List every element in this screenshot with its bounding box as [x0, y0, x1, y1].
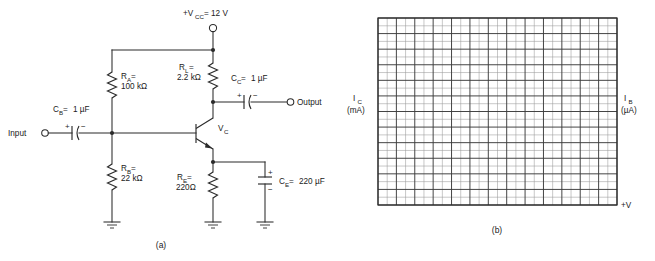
vc-label-sub: C	[224, 128, 229, 135]
cb-minus-sign: −	[81, 122, 86, 131]
ground-symbol-bypass	[257, 222, 273, 228]
figure-page: +V CC = 12 V R A = 100 kΩ R B =	[0, 0, 655, 261]
panel-b-caption: (b)	[492, 225, 503, 235]
ce-plus-sign: +	[268, 168, 273, 177]
ce-eq: =	[289, 177, 294, 186]
rb-value: 22 kΩ	[121, 174, 143, 183]
transistor-npn	[112, 118, 213, 149]
ra-value: 100 kΩ	[121, 82, 147, 91]
panel-a-caption: (a)	[156, 240, 167, 250]
supply-terminal[interactable]	[209, 24, 216, 31]
ce-minus-sign: −	[268, 185, 273, 194]
cc-minus-sign: −	[253, 91, 258, 100]
panel-b-graph: I C (mA) I B (µA) +V (b)	[340, 0, 655, 261]
input-label: Input	[8, 129, 27, 138]
y-axis-right-unit: (µA)	[621, 106, 637, 115]
rl-label-eq: =	[189, 63, 194, 72]
y-axis-right-symbol-sub: B	[629, 98, 633, 105]
ce-value: 220 µF	[299, 177, 325, 186]
output-label: Output	[297, 98, 322, 107]
y-axis-right-symbol-main: I	[624, 94, 626, 103]
resistor-re-symbol	[209, 172, 218, 198]
cc-value: 1 µF	[251, 74, 268, 83]
cc-plus-sign: +	[237, 91, 242, 100]
graph-grid	[378, 18, 617, 205]
supply-label-main: +V	[183, 9, 194, 18]
resistor-ra-symbol	[108, 72, 117, 98]
ra-label-eq: =	[131, 72, 136, 81]
rl-value: 2.2 kΩ	[177, 73, 201, 82]
resistor-rb-symbol	[108, 164, 117, 190]
graph-svg: I C (mA) I B (µA) +V (b)	[340, 0, 655, 261]
re-value: 220Ω	[176, 183, 196, 192]
schematic-svg: +V CC = 12 V R A = 100 kΩ R B =	[0, 0, 340, 261]
transistor-emitter-arrow	[205, 143, 212, 149]
supply-label-tail: = 12 V	[204, 9, 228, 18]
transistor-collector-lead	[196, 118, 213, 129]
output-terminal[interactable]	[287, 99, 294, 106]
resistor-rl-symbol	[209, 63, 218, 89]
y-axis-left-symbol-main: I	[353, 94, 355, 103]
y-axis-left-unit: (mA)	[347, 106, 365, 115]
re-label-eq: =	[187, 173, 192, 182]
cc-eq: =	[241, 74, 246, 83]
rb-label-eq: =	[131, 164, 136, 173]
x-axis-label: +V	[621, 201, 632, 210]
cb-eq: =	[63, 105, 68, 114]
y-axis-left-symbol-sub: C	[358, 98, 363, 105]
input-terminal[interactable]	[42, 130, 49, 137]
cb-value: 1 µF	[73, 105, 90, 114]
panel-a-schematic: +V CC = 12 V R A = 100 kΩ R B =	[0, 0, 340, 261]
ground-symbol-input	[104, 222, 120, 228]
cb-plus-sign: +	[65, 122, 70, 131]
ground-symbol-emitter	[205, 222, 221, 228]
